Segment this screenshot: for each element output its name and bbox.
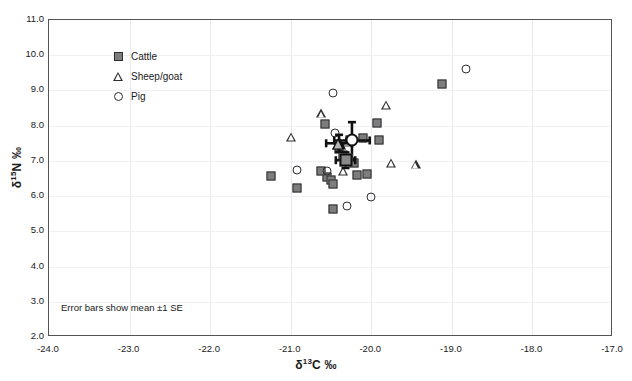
cattle-marker-icon [339, 154, 352, 167]
y-axis-tick-label: 8.0 [2, 120, 44, 130]
x-axis-tick-label: -20.0 [347, 344, 393, 354]
x-axis-tick-label: -19.0 [428, 344, 474, 354]
sheepgoat-marker-icon [113, 72, 123, 81]
mean-marker [332, 137, 346, 150]
legend-item: Sheep/goat [109, 66, 219, 86]
legend-marker [109, 72, 127, 81]
sheepgoat-marker-icon [332, 137, 346, 150]
y-axis-tick-label: 3.0 [2, 296, 44, 306]
y-axis-tick-label: 7.0 [2, 155, 44, 165]
x-axis-tick-label: -23.0 [106, 344, 152, 354]
mean-marker [345, 134, 358, 147]
scatter-chart: δ15N ‰ δ13C ‰ 11.010.09.08.07.06.05.04.0… [0, 0, 632, 381]
y-axis-tick-label: 9.0 [2, 84, 44, 94]
y-axis-tick-label: 10.0 [2, 49, 44, 59]
legend-item: Cattle [109, 46, 219, 66]
x-axis-tick-label: -18.0 [508, 344, 554, 354]
x-axis-tick-label: -17.0 [589, 344, 632, 354]
y-axis-tick-label: 6.0 [2, 190, 44, 200]
x-axis-tick-label: -21.0 [267, 344, 313, 354]
legend: CattleSheep/goatPig [109, 46, 219, 106]
y-axis-tick-label: 5.0 [2, 225, 44, 235]
legend-label: Pig [127, 91, 145, 102]
legend-item: Pig [109, 86, 219, 106]
y-axis-tick-label: 11.0 [2, 14, 44, 24]
x-axis-tick-label: -24.0 [25, 344, 71, 354]
legend-marker [109, 92, 127, 101]
y-axis-tick-label: 4.0 [2, 261, 44, 271]
legend-marker [109, 52, 127, 61]
y-axis-tick-label: 2.0 [2, 331, 44, 341]
pig-marker-icon [345, 134, 358, 147]
pig-marker-icon [114, 92, 123, 101]
error-bar-annotation: Error bars show mean ±1 SE [61, 302, 183, 313]
mean-marker [339, 154, 352, 167]
x-axis-tick-label: -22.0 [186, 344, 232, 354]
legend-label: Cattle [127, 51, 157, 62]
legend-label: Sheep/goat [127, 71, 182, 82]
cattle-marker-icon [114, 52, 123, 61]
plot-area: CattleSheep/goatPig Error bars show mean… [48, 19, 612, 336]
